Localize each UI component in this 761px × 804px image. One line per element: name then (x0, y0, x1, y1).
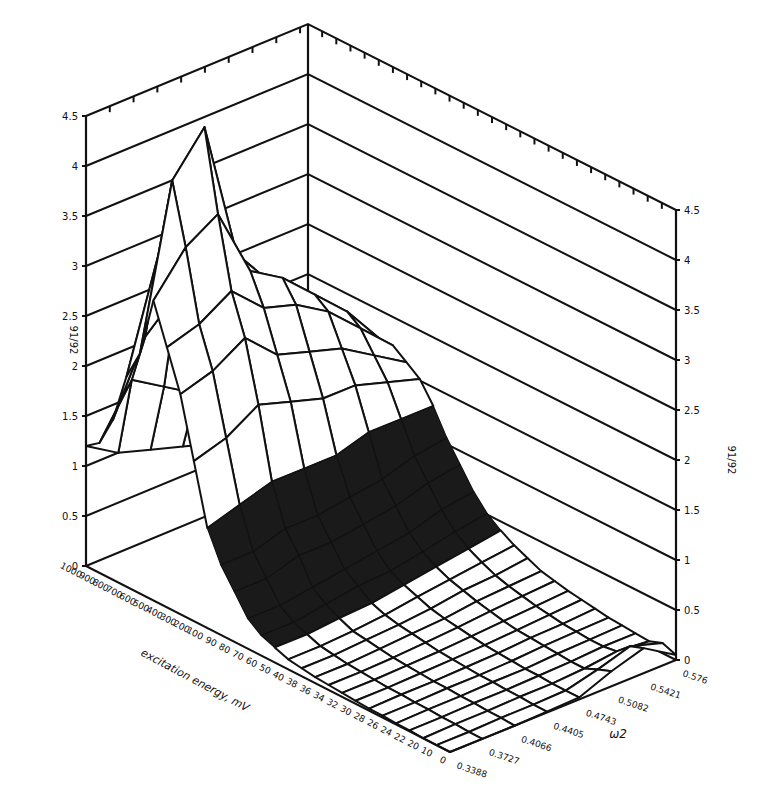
x-tick-label: 40 (271, 669, 286, 683)
y-tick-label: 0.3727 (488, 747, 521, 766)
y-tick-label: 0.5421 (649, 682, 682, 701)
x-tick-label: 38 (285, 676, 300, 690)
y-tick-label: 0.3388 (455, 760, 488, 779)
z-tick-left: 3 (72, 261, 78, 272)
x-tick-label: 26 (365, 717, 380, 731)
z-tick-left: 3.5 (62, 211, 78, 222)
surface-plot: 000.50.5111.51.5222.52.5333.53.5444.54.5… (0, 0, 761, 804)
x-tick-label: 30 (339, 703, 354, 717)
y-tick-label: 0.4066 (520, 734, 553, 753)
x-tick-label: 90 (204, 635, 219, 649)
x-tick-label: 22 (392, 731, 407, 745)
z-axis-title-right: 91/92 (726, 446, 737, 475)
z-tick-right: 4.5 (684, 205, 700, 216)
z-tick-right: 2 (684, 455, 690, 466)
x-tick-label: 10 (419, 745, 434, 759)
z-tick-right: 1 (684, 555, 690, 566)
x-tick-label: 80 (217, 641, 232, 655)
y-tick-label: 0.5082 (617, 695, 650, 714)
x-tick-label: 0 (438, 754, 448, 766)
z-tick-right: 4 (684, 255, 690, 266)
x-tick-label: 32 (325, 697, 340, 711)
y-tick-label: 0.576 (681, 668, 709, 686)
y-axis-title: ω2 (609, 727, 627, 741)
x-tick-label: 20 (406, 738, 421, 752)
z-tick-right: 3.5 (684, 305, 700, 316)
x-tick-label: 70 (231, 648, 246, 662)
z-tick-left: 1.5 (62, 411, 78, 422)
x-tick-label: 100 (185, 625, 205, 642)
z-tick-right: 2.5 (684, 405, 700, 416)
z-axis-title-left: 91/92 (68, 326, 79, 355)
x-tick-label: 50 (258, 662, 273, 676)
z-tick-right: 1.5 (684, 505, 700, 516)
surface-plot-canvas: 000.50.5111.51.5222.52.5333.53.5444.54.5… (0, 0, 761, 804)
x-tick-label: 60 (244, 655, 259, 669)
x-tick-label: 34 (312, 690, 327, 704)
x-tick-label: 28 (352, 710, 367, 724)
z-tick-left: 2 (72, 361, 78, 372)
y-tick-label: 0.4405 (552, 721, 585, 740)
y-tick-label: 0.4743 (585, 708, 618, 727)
z-tick-left: 0.5 (62, 511, 78, 522)
z-tick-right: 3 (684, 355, 690, 366)
z-tick-left: 1 (72, 461, 78, 472)
x-tick-label: 36 (298, 683, 313, 697)
z-tick-left: 2.5 (62, 311, 78, 322)
z-tick-left: 4.5 (62, 111, 78, 122)
z-tick-right: 0.5 (684, 605, 700, 616)
x-tick-label: 24 (379, 724, 394, 738)
z-tick-left: 4 (72, 161, 78, 172)
z-tick-right: 0 (684, 655, 690, 666)
